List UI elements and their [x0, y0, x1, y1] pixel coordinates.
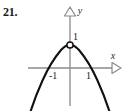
parabola-plot: 1 -1 1 x y [0, 0, 126, 111]
x-tick-label-pos-one: 1 [86, 70, 91, 81]
x-tick-label-neg-one: -1 [49, 70, 57, 81]
x-axis-label: x [110, 50, 116, 61]
y-axis-label: y [77, 5, 83, 16]
vertex-open-point [67, 42, 73, 48]
figure-container: 21. 1 -1 1 x y [0, 0, 126, 111]
x-axis-arrowhead-icon [112, 63, 121, 74]
y-axis-arrowhead-icon [65, 7, 76, 16]
y-tick-label-one: 1 [73, 31, 78, 42]
